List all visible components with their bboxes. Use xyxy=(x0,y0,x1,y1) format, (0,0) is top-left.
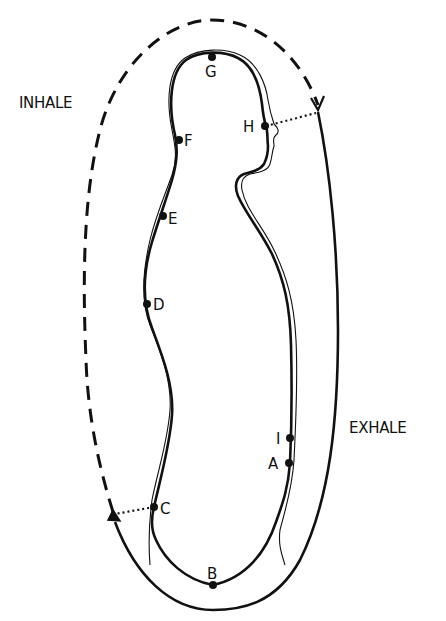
exhale-arrow-icon xyxy=(108,510,120,521)
point-g-dot xyxy=(208,53,216,61)
point-c-dot xyxy=(150,503,158,511)
point-g-label: G xyxy=(205,63,217,81)
body-outline-thin xyxy=(144,50,297,565)
inhale-label: INHALE xyxy=(19,94,72,112)
exhale-label: EXHALE xyxy=(349,419,406,437)
inhale-path xyxy=(84,20,318,512)
point-i-dot xyxy=(286,434,294,442)
point-f-label: F xyxy=(184,132,193,150)
diagram-canvas: INHALE EXHALE A B C D E F G xyxy=(0,0,446,621)
point-a-dot xyxy=(285,459,293,467)
point-d-label: D xyxy=(153,296,165,314)
point-h-label: H xyxy=(243,118,254,136)
point-e-label: E xyxy=(168,210,177,228)
point-a-label: A xyxy=(268,455,279,473)
point-h-dot xyxy=(261,122,269,130)
point-g: G xyxy=(205,53,217,81)
point-b-label: B xyxy=(207,565,217,583)
point-i-label: I xyxy=(276,430,280,448)
point-d-dot xyxy=(143,300,151,308)
breath-cycle-diagram: INHALE EXHALE A B C D E F G xyxy=(0,0,446,621)
point-e: E xyxy=(159,210,177,228)
point-e-dot xyxy=(159,212,167,220)
connector-c xyxy=(115,507,154,514)
point-c-label: C xyxy=(160,500,170,518)
exhale-path xyxy=(115,112,338,610)
point-f-dot xyxy=(175,136,183,144)
